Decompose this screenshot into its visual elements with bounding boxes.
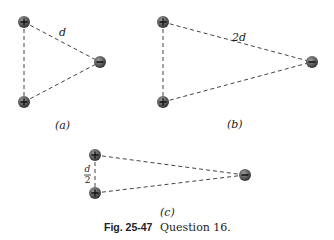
positive-charge-icon: [89, 187, 101, 199]
figure-number: Fig. 25-47: [104, 221, 152, 233]
positive-charge-icon: [18, 16, 30, 28]
distance-label-c-denominator: 2: [83, 176, 92, 185]
distance-label-b: 2d: [232, 31, 246, 44]
negative-charge-icon: [306, 56, 318, 68]
positive-charge-icon: [89, 149, 101, 161]
positive-charge-icon: [157, 16, 169, 28]
distance-label-c-numerator: d: [83, 165, 92, 174]
panel-label-a: (a): [55, 119, 70, 132]
panel-label-b: (b): [227, 118, 243, 131]
charges: [18, 16, 318, 199]
panel-label-c: (c): [160, 206, 175, 219]
positive-charge-icon: [157, 96, 169, 108]
line-a-bottom-minus: [24, 62, 100, 102]
positive-charge-icon: [18, 96, 30, 108]
figure-25-47: d 2d d 2 (a) (b) (c) Fig. 25-47 Question…: [0, 0, 334, 240]
figure-caption-text: Question 16.: [160, 221, 231, 234]
distance-label-a: d: [59, 26, 66, 39]
negative-charge-icon: [94, 56, 106, 68]
panel-c-lines: [95, 155, 245, 193]
figure-caption: Fig. 25-47 Question 16.: [104, 221, 231, 234]
charge-diagrams: [0, 0, 334, 240]
negative-charge-icon: [239, 169, 251, 181]
